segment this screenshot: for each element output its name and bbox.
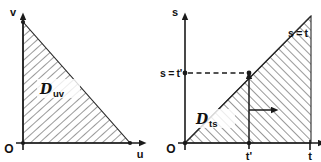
uv-domain-panel: v u O D uv: [4, 6, 143, 160]
uv-region-label: D uv: [37, 79, 80, 99]
figure-svg: v u O D uv: [0, 0, 321, 162]
ts-region-label-main: D: [195, 111, 209, 127]
figure-container: v u O D uv: [0, 0, 321, 162]
s-equals-t-prime-label: s = t': [160, 67, 182, 79]
uv-origin-label: O: [4, 142, 13, 156]
ts-region-label-sub: ts: [209, 118, 217, 129]
ts-origin-dot: [183, 141, 187, 145]
uv-region-label-sub: uv: [53, 88, 65, 99]
uv-region-label-main: D: [39, 81, 53, 97]
ts-domain-panel: s O s = t' s = t t' t D ts: [160, 6, 319, 162]
s-equals-t-label: s = t: [288, 27, 309, 39]
u-axis-label: u: [137, 148, 144, 160]
t-prime-tick-label: t': [246, 150, 253, 162]
v-axis-label: v: [10, 6, 17, 18]
ts-origin-label: O: [166, 142, 175, 156]
t-end-tick-label: t: [308, 150, 312, 162]
ts-region-label: D ts: [193, 109, 235, 129]
uv-apex-dot: [21, 20, 25, 24]
uv-base-dot: [128, 141, 132, 145]
diagonal-point-dot: [247, 71, 252, 76]
s-value-dot: [183, 71, 188, 76]
uv-origin-dot: [21, 141, 25, 145]
s-axis-label: s: [172, 6, 178, 18]
